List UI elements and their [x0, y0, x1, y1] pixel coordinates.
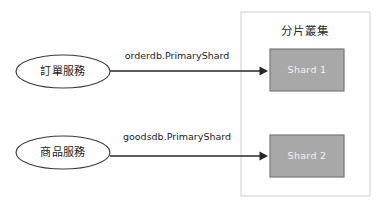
diagram-canvas: 分片叢集 Shard 1 Shard 2 orderdb.PrimaryShar…	[0, 0, 379, 204]
shard-cluster-title: 分片叢集	[281, 24, 329, 38]
edge-order-label: orderdb.PrimaryShard	[125, 50, 230, 61]
service-node-goods[interactable]: 商品服務	[16, 136, 110, 169]
order-service-label: 訂單服務	[40, 64, 86, 78]
shard-node-1[interactable]: Shard 1	[270, 49, 344, 91]
goods-service-label: 商品服務	[40, 145, 86, 159]
sharding-architecture-diagram: 分片叢集 Shard 1 Shard 2 orderdb.PrimaryShar…	[0, 0, 379, 204]
service-node-order[interactable]: 訂單服務	[16, 55, 110, 88]
shard-2-label: Shard 2	[288, 150, 327, 161]
shard-node-2[interactable]: Shard 2	[270, 135, 344, 177]
edge-goods-label: goodsdb.PrimaryShard	[123, 131, 231, 142]
shard-1-label: Shard 1	[288, 64, 327, 75]
